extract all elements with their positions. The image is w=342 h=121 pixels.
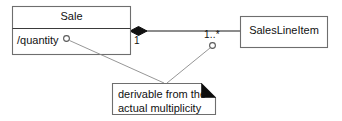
note-text-line-1: derivable from the — [118, 89, 206, 100]
note-text-line-2: actual multiplicity — [118, 103, 201, 114]
class-name-saleslineitem: SalesLineItem — [240, 25, 328, 36]
class-attribute-quantity: /quantity — [17, 35, 59, 46]
uml-class-diagram-canvas: Sale /quantity SalesLineItem 1 1..* deri… — [0, 0, 342, 121]
multiplicity-label-saleslineitem-end: 1..* — [204, 30, 220, 40]
multiplicity-label-sale-end: 1 — [134, 36, 140, 46]
note-anchor-line-to-multiplicity — [167, 48, 210, 83]
note-anchor-circle-quantity — [64, 36, 70, 42]
note-anchor-circle-multiplicity — [210, 43, 216, 49]
class-name-sale: Sale — [13, 11, 130, 22]
